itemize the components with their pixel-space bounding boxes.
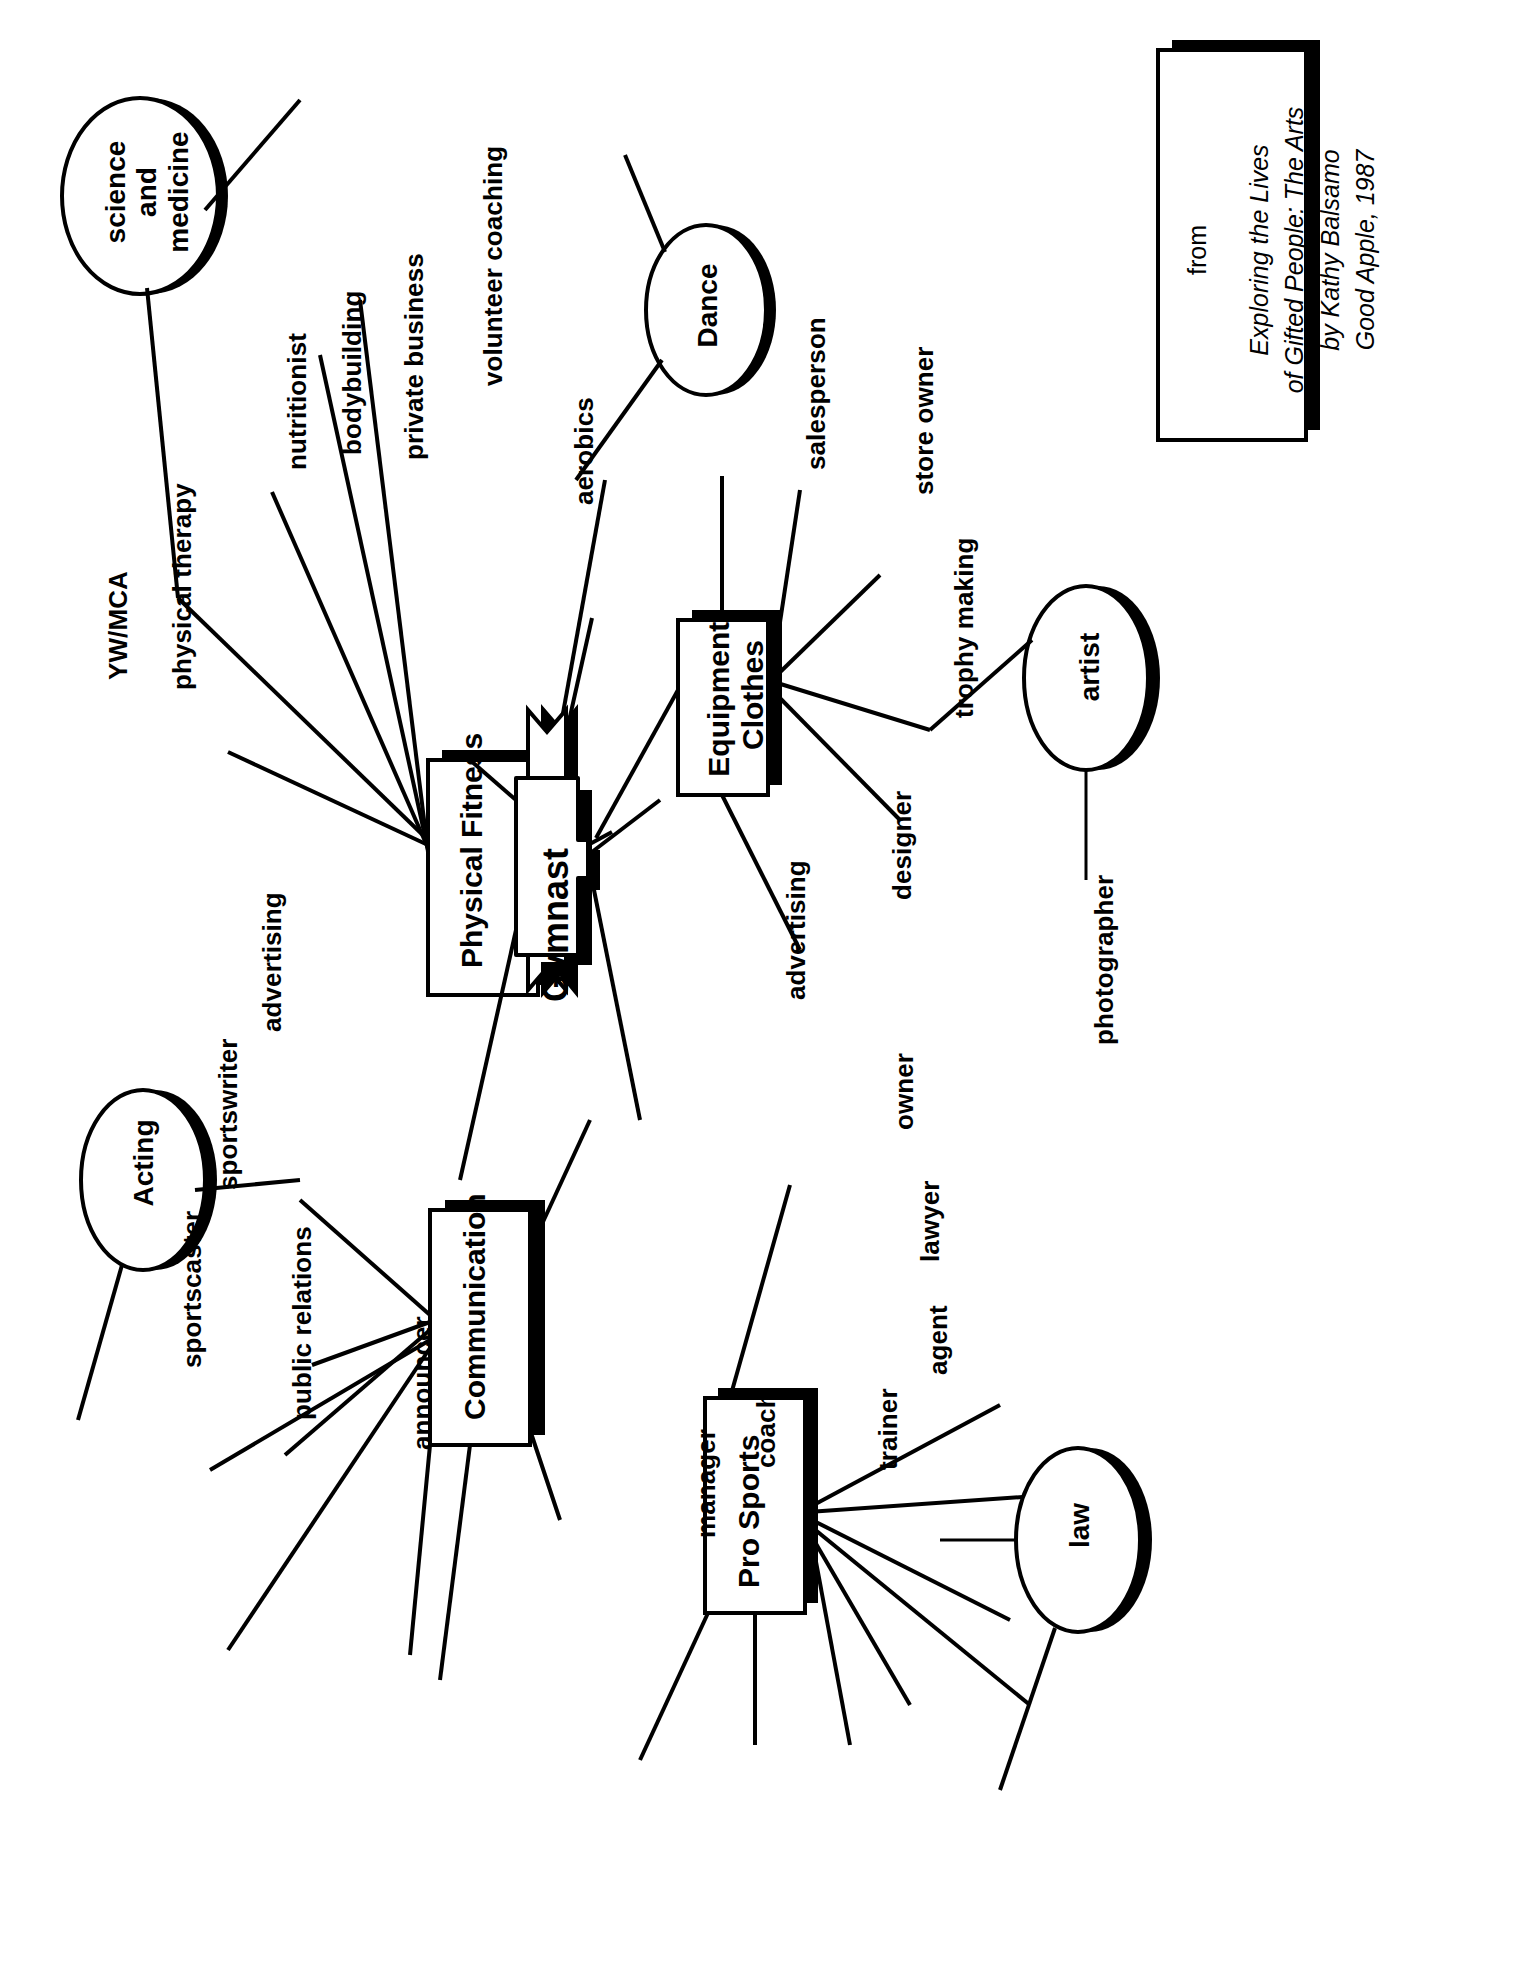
leaf-salesperson: salesperson	[802, 317, 831, 470]
leaf-manager: manager	[692, 1429, 721, 1538]
edge-artist-in	[930, 640, 1032, 730]
leaf-volunteer-coaching: volunteer coaching	[478, 146, 508, 386]
node-label-law: law	[1064, 1483, 1095, 1568]
leaf-agent: agent	[924, 1305, 953, 1375]
diagram-page: Physical Fitness YW/MCA physical therapy…	[0, 0, 1520, 1972]
citation-title-line1: Exploring the Lives	[1242, 72, 1278, 428]
edge-acting-out	[78, 1265, 122, 1420]
leaf-store-owner: store owner	[910, 347, 939, 495]
edge-law-out	[1000, 1628, 1055, 1790]
leaf-ywmca: YW/MCA	[104, 571, 133, 680]
leaf-private-business: private business	[400, 253, 429, 460]
leaf-advertising-equipment: advertising	[782, 860, 811, 1000]
leaf-sportswriter: sportswriter	[214, 1039, 243, 1190]
node-label-physical-fitness: Physical Fitness	[455, 758, 489, 968]
node-label-equipment-clothes: Equipment/ Clothes	[702, 610, 769, 780]
leaf-bodybuilding: bodybuilding	[338, 291, 367, 455]
leaf-trainer: trainer	[874, 1388, 903, 1470]
leaf-trophy-making: trophy making	[950, 538, 979, 718]
leaf-sportscaster: sportscaster	[178, 1211, 207, 1368]
source-citation: from Exploring the Lives of Gifted Peopl…	[1180, 72, 1384, 428]
node-label-dance: Dance	[692, 253, 723, 358]
leaf-public-relations: public relations	[288, 1226, 317, 1420]
citation-publisher: Good Apple, 1987	[1348, 72, 1384, 428]
leaf-lawyer: lawyer	[916, 1180, 945, 1262]
node-label-acting: Acting	[128, 1108, 159, 1218]
leaf-owner: owner	[890, 1053, 919, 1130]
citation-from: from	[1180, 72, 1216, 428]
citation-author: by Kathy Balsamo	[1313, 72, 1349, 428]
leaf-physical-therapy: physical therapy	[168, 483, 197, 690]
leaf-designer: designer	[888, 791, 917, 900]
citation-title-line2: of Gifted People: The Arts	[1277, 72, 1313, 428]
leaf-coach: coach	[752, 1392, 781, 1468]
leaf-aerobics: aerobics	[570, 397, 599, 505]
edge-dance-up	[625, 155, 665, 252]
node-label-communication: Communication	[458, 1193, 492, 1420]
node-label-science-and-medicine: science and medicine	[100, 122, 194, 262]
node-label-artist: artist	[1074, 622, 1105, 712]
node-label-gymnast: Gymnast	[536, 848, 576, 1002]
leaf-photographer: photographer	[1090, 875, 1119, 1045]
leaf-nutritionist: nutritionist	[283, 333, 312, 470]
leaf-advertising-communication: advertising	[258, 892, 287, 1032]
leaf-announcer: announcer	[408, 1316, 437, 1450]
